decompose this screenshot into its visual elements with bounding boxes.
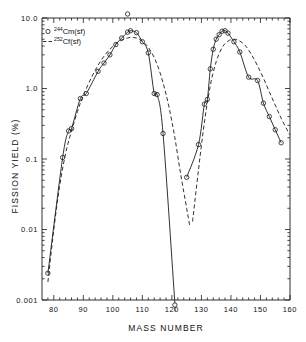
figure-container: 8090100110120130140150160 0.0010.010.11.… (0, 0, 306, 342)
x-tick-label: 160 (283, 305, 297, 314)
legend-cf-label: Cf(sf) (63, 37, 82, 46)
fission-yield-chart: 8090100110120130140150160 0.0010.010.11.… (0, 0, 306, 342)
x-tick-label: 100 (106, 305, 120, 314)
x-tick-label: 130 (194, 305, 208, 314)
legend-cm-label: Cm(sf) (63, 27, 86, 36)
x-tick-label: 150 (253, 305, 267, 314)
x-tick-label: 90 (79, 305, 89, 314)
y-tick-label: 10.0 (21, 14, 38, 23)
y-tick-label: 0.001 (16, 296, 38, 305)
legend-cm-superscript: 244 (54, 26, 63, 32)
chart-background (0, 0, 306, 342)
x-tick-label: 80 (49, 305, 59, 314)
y-axis-title: FISSION YIELD (%) (10, 118, 20, 213)
x-tick-label: 140 (224, 305, 238, 314)
x-axis-title: MASS NUMBER (128, 323, 203, 333)
x-tick-label: 110 (135, 305, 149, 314)
y-tick-label: 1.0 (26, 84, 38, 93)
y-tick-label: 0.1 (26, 155, 38, 164)
legend-cf-superscript: 252 (54, 36, 63, 42)
y-tick-label: 0.01 (21, 225, 38, 234)
